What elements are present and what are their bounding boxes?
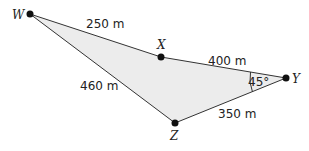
length-wz: 460 m (80, 79, 118, 93)
triangle-diagram: W X Y Z 250 m 400 m 460 m 350 m 45° (0, 0, 309, 151)
label-w: W (12, 8, 26, 22)
angle-y-label: 45° (248, 75, 269, 89)
label-y: Y (292, 72, 301, 86)
label-x: X (156, 38, 166, 52)
point-y (283, 75, 290, 82)
point-z (172, 120, 179, 127)
length-zy: 350 m (218, 107, 256, 121)
length-wx: 250 m (86, 17, 124, 31)
length-xy: 400 m (208, 54, 246, 68)
label-z: Z (169, 129, 179, 143)
point-w (27, 11, 34, 18)
point-x (158, 54, 165, 61)
